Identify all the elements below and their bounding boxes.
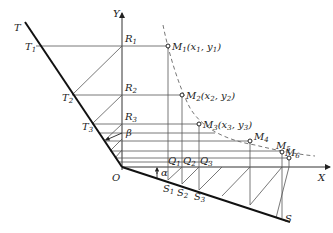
diag-s6 [276, 167, 289, 218]
s1-label: S1 [163, 183, 174, 196]
r2-label: R2 [124, 82, 138, 95]
s-line [122, 167, 290, 222]
origin-label: O [112, 172, 120, 183]
diag-t3-r2 [92, 95, 122, 124]
y-axis-label: Y [113, 8, 121, 19]
point-m2 [180, 93, 184, 97]
m4-label: M4 [253, 131, 269, 144]
m1-label: M1(x1, y1) [171, 41, 221, 54]
q3-label: Q3 [200, 155, 213, 168]
diag-s5 [250, 167, 282, 205]
r3-label: R3 [124, 111, 138, 124]
diag-beta-r3 [104, 124, 122, 141]
diag-t2-r1 [72, 46, 122, 95]
diag-s1-q [168, 167, 182, 180]
r1-label: R1 [124, 33, 137, 46]
diag-s2-q [182, 167, 199, 184]
point-m3 [197, 122, 201, 126]
diag-s3-q [199, 167, 222, 190]
t2-label: T2 [62, 92, 74, 105]
m3-label: M3(x3, y3) [202, 119, 252, 132]
construction-diagram: Y X O T S β α T1 T2 T3 R1 R2 R3 Q1 Q2 Q3… [0, 0, 333, 233]
beta-label: β [125, 127, 132, 138]
point-m4 [248, 139, 252, 143]
t-line [25, 22, 122, 167]
m2-label: M2(x2, y2) [185, 90, 235, 103]
q1-label: Q1 [168, 155, 181, 168]
diag-s4 [222, 167, 250, 196]
alpha-label: α [161, 167, 168, 178]
point-m1 [166, 44, 170, 48]
s-line-label: S [285, 213, 292, 224]
x-axis-label: X [317, 172, 326, 183]
q2-label: Q2 [183, 155, 196, 168]
t1-label: T1 [25, 41, 36, 54]
t-line-label: T [14, 22, 22, 33]
